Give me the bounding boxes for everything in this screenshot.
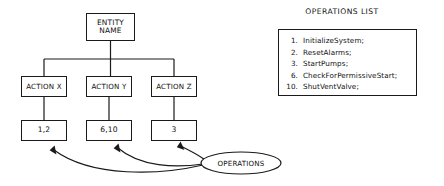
list-item-name: InitializeSystem; — [303, 35, 416, 47]
list-item-number: 2. — [279, 47, 303, 59]
value-label-z: 3 — [171, 126, 176, 135]
list-item-number: 3. — [279, 58, 303, 70]
list-item: 10. ShutVentValve; — [279, 81, 416, 93]
arrowhead-value-3 — [177, 142, 185, 151]
list-item-number: 1. — [279, 35, 303, 47]
value-label-y: 6,10 — [100, 126, 118, 135]
operations-list-panel: 1. InitializeSystem; 2. ResetAlarms; 3. … — [278, 29, 417, 96]
action-box-y[interactable]: ACTION Y — [86, 76, 132, 97]
list-item-number: 10. — [279, 81, 303, 93]
value-label-x: 1,2 — [38, 126, 51, 135]
entity-name-line-2: NAME — [99, 27, 121, 35]
operations-bubble-label[interactable]: OPERATIONS — [205, 156, 277, 170]
list-item: 3. StartPumps; — [279, 58, 416, 70]
arrow-curve-to-value-3 — [181, 146, 205, 160]
list-item-name: CheckForPermissiveStart; — [303, 70, 416, 82]
list-item: 2. ResetAlarms; — [279, 47, 416, 59]
operations-bubble-text: OPERATIONS — [217, 159, 264, 168]
diagram-canvas: ENTITY NAME ACTION X ACTION Y ACTION Z 1… — [0, 0, 444, 186]
action-label-x: ACTION X — [26, 83, 62, 91]
list-item-name: StartPumps; — [303, 58, 416, 70]
arrowhead-value-1 — [50, 146, 57, 155]
list-item-number: 6. — [279, 70, 303, 82]
action-label-y: ACTION Y — [91, 83, 126, 91]
arrowhead-value-2 — [114, 144, 121, 153]
action-box-z[interactable]: ACTION Z — [151, 76, 197, 97]
value-box-x[interactable]: 1,2 — [21, 120, 67, 141]
action-label-z: ACTION Z — [156, 83, 192, 91]
list-item: 1. InitializeSystem; — [279, 35, 416, 47]
entity-name-box[interactable]: ENTITY NAME — [86, 13, 135, 41]
value-box-y[interactable]: 6,10 — [86, 120, 132, 141]
operations-list-title: OPERATIONS LIST — [262, 7, 422, 16]
list-item: 6. CheckForPermissiveStart; — [279, 70, 416, 82]
list-item-name: ShutVentValve; — [303, 81, 416, 93]
list-item-name: ResetAlarms; — [303, 47, 416, 59]
value-box-z[interactable]: 3 — [151, 120, 197, 141]
arrow-curve-to-value-1 — [54, 150, 203, 172]
action-box-x[interactable]: ACTION X — [21, 76, 67, 97]
